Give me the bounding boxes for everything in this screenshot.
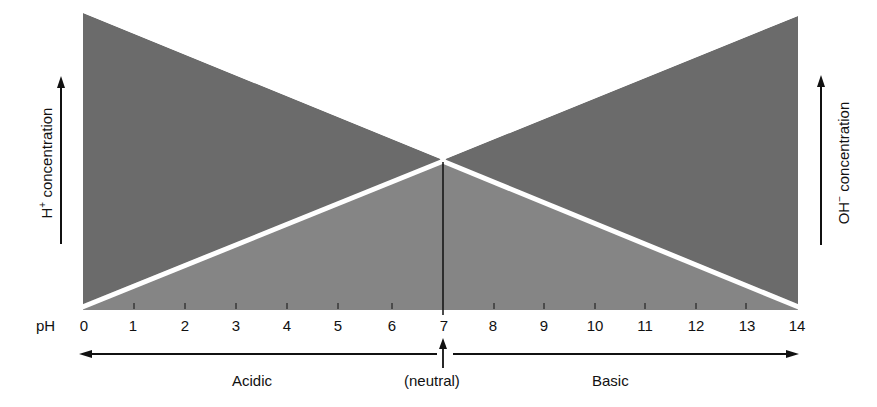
ph-axis-label: pH <box>36 317 55 335</box>
oh-label-sup: − <box>834 196 845 202</box>
oh-label-base: OH <box>835 202 852 225</box>
tick-label-3: 3 <box>232 317 240 335</box>
tick-label-1: 1 <box>129 317 137 335</box>
ph-diagram-graphic <box>0 0 877 407</box>
tick-label-10: 10 <box>587 317 604 335</box>
tick-label-14: 14 <box>789 317 806 335</box>
h-label-sup: + <box>37 202 48 208</box>
basic-label: Basic <box>592 372 629 390</box>
h-label-base: H <box>38 208 55 219</box>
oh-concentration-label: OH− concentration <box>831 73 853 253</box>
tick-label-8: 8 <box>489 317 497 335</box>
tick-label-4: 4 <box>283 317 291 335</box>
right-up-arrow-icon <box>817 75 825 245</box>
tick-label-0: 0 <box>80 317 88 335</box>
acidic-arrow-icon <box>79 350 437 358</box>
tick-label-12: 12 <box>688 317 705 335</box>
left-up-arrow-icon <box>57 76 65 244</box>
tick-label-7: 7 <box>440 317 448 335</box>
h-label-rest: concentration <box>38 108 55 202</box>
neutral-arrow-icon <box>439 338 447 368</box>
tick-label-2: 2 <box>181 317 189 335</box>
tick-label-11: 11 <box>637 317 653 335</box>
h-concentration-label: H+ concentration <box>34 73 56 253</box>
tick-label-6: 6 <box>388 317 396 335</box>
tick-label-9: 9 <box>540 317 548 335</box>
oh-label-rest: concentration <box>835 102 852 196</box>
acidic-label: Acidic <box>232 372 272 390</box>
tick-label-5: 5 <box>334 317 342 335</box>
tick-label-13: 13 <box>739 317 756 335</box>
basic-arrow-icon <box>453 350 799 358</box>
neutral-label: (neutral) <box>404 372 460 390</box>
